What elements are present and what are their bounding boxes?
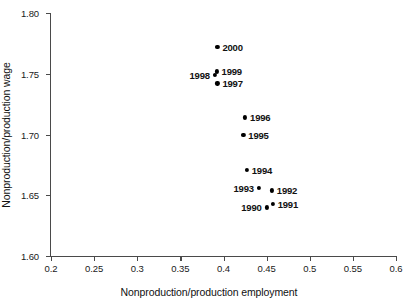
data-point bbox=[241, 132, 245, 136]
x-tick-mark bbox=[224, 256, 225, 261]
x-tick-label: 0.2 bbox=[45, 263, 58, 274]
x-tick-label: 0.25 bbox=[85, 263, 103, 274]
y-tick-label: 1.60 bbox=[21, 251, 39, 262]
data-point-label: 2000 bbox=[222, 42, 242, 53]
data-point-label: 1993 bbox=[234, 182, 254, 193]
x-tick-mark bbox=[94, 256, 95, 261]
data-point-label: 1994 bbox=[252, 164, 272, 175]
data-point bbox=[270, 188, 274, 192]
data-point-label: 1991 bbox=[278, 198, 298, 209]
y-tick-mark: 1.70 bbox=[46, 135, 51, 136]
y-axis-title: Nonproduction/production wage bbox=[0, 62, 12, 207]
x-tick-label: 0.35 bbox=[171, 263, 189, 274]
data-point-label: 1990 bbox=[241, 202, 261, 213]
data-point bbox=[271, 202, 275, 206]
x-tick-mark bbox=[137, 256, 138, 261]
x-tick-mark bbox=[51, 256, 52, 261]
x-tick-mark bbox=[353, 256, 354, 261]
x-tick-label: 0.6 bbox=[390, 263, 403, 274]
data-point bbox=[245, 168, 249, 172]
scatter-plot-figure: Nonproduction/production wage 1.601.651.… bbox=[0, 0, 418, 307]
data-point bbox=[213, 73, 217, 77]
x-tick-label: 0.3 bbox=[131, 263, 144, 274]
data-point-label: 1992 bbox=[277, 185, 297, 196]
x-tick-label: 0.4 bbox=[217, 263, 230, 274]
data-point bbox=[215, 69, 219, 73]
data-point bbox=[243, 115, 247, 119]
x-tick-label: 0.55 bbox=[344, 263, 362, 274]
data-point-label: 1999 bbox=[222, 66, 242, 77]
data-point-label: 1996 bbox=[250, 112, 270, 123]
data-point-label: 1998 bbox=[190, 69, 210, 80]
x-tick-mark bbox=[396, 256, 397, 261]
y-tick-label: 1.80 bbox=[21, 8, 39, 19]
data-point-label: 1997 bbox=[222, 78, 242, 89]
x-tick-mark bbox=[310, 256, 311, 261]
y-tick-mark: 1.75 bbox=[46, 74, 51, 75]
plot-area: 1.601.651.701.751.80 0.20.250.30.350.40.… bbox=[51, 13, 396, 256]
x-axis-title: Nonproduction/production employment bbox=[0, 286, 418, 298]
y-tick-label: 1.75 bbox=[21, 68, 39, 79]
x-tick-mark bbox=[267, 256, 268, 261]
y-tick-label: 1.70 bbox=[21, 129, 39, 140]
y-tick-mark: 1.80 bbox=[46, 13, 51, 14]
data-point bbox=[215, 45, 219, 49]
data-point bbox=[265, 205, 269, 209]
data-point bbox=[257, 186, 261, 190]
data-point-label: 1995 bbox=[248, 129, 268, 140]
y-tick-mark: 1.65 bbox=[46, 195, 51, 196]
data-point bbox=[215, 81, 219, 85]
y-tick-label: 1.65 bbox=[21, 190, 39, 201]
x-tick-label: 0.45 bbox=[258, 263, 276, 274]
x-tick-label: 0.5 bbox=[303, 263, 316, 274]
x-tick-mark bbox=[180, 256, 181, 261]
